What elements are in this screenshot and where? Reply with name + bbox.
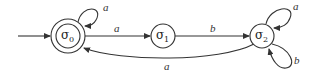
state-s0-subscript: 0: [69, 35, 74, 44]
state-s1: σ 1: [151, 24, 175, 48]
state-s1-label: σ: [156, 28, 164, 42]
edge-label-s2-s0: a: [164, 60, 170, 72]
state-s1-subscript: 1: [164, 35, 169, 44]
edge-label-s2-s2-a: a: [293, 0, 299, 12]
edge-s2-s2-b: [269, 44, 292, 68]
state-diagram: a a b a b a σ 0 σ 1 σ 2: [0, 0, 312, 75]
state-s2-label: σ: [255, 28, 263, 42]
edge-s0-s0-a: [78, 9, 98, 26]
edge-label-s0-s1: a: [114, 22, 120, 34]
edge-s2-s2-a: [266, 9, 291, 28]
edge-label-s2-s2-b: b: [294, 54, 300, 66]
state-s2-subscript: 2: [263, 35, 268, 44]
state-s0-label: σ: [61, 28, 69, 42]
edge-label-s1-s2: b: [210, 22, 216, 34]
edge-label-s0-s0: a: [103, 1, 109, 13]
state-s2: σ 2: [250, 24, 274, 48]
state-s0: σ 0: [51, 19, 85, 53]
